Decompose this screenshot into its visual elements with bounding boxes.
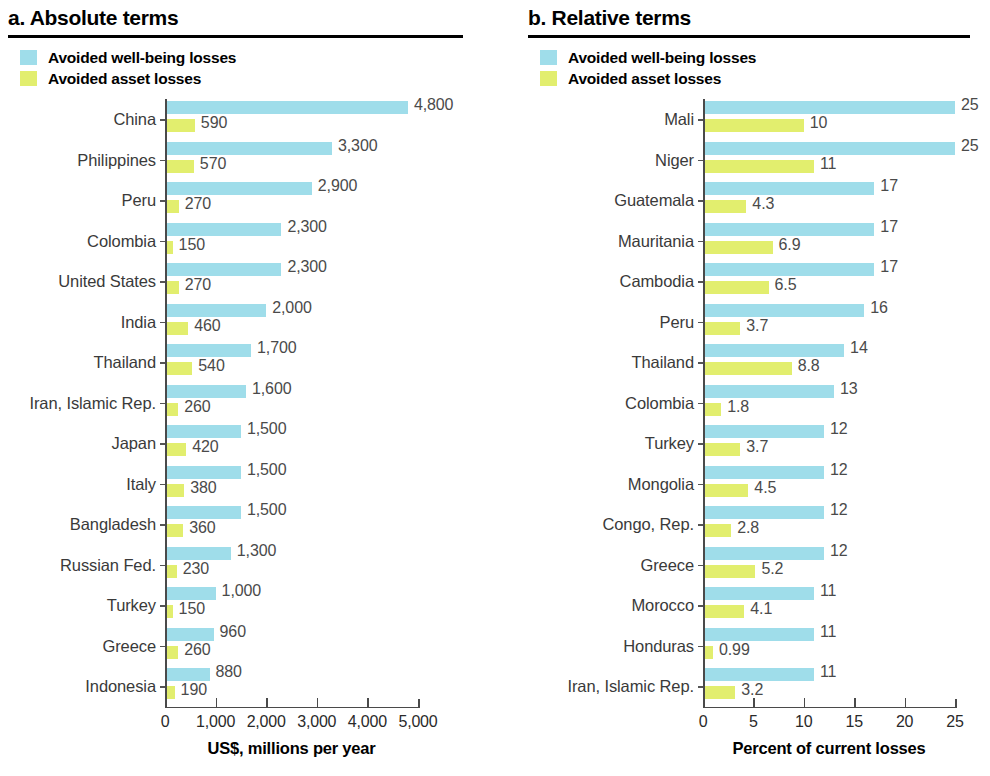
category-label: Colombia: [0, 221, 165, 262]
x-tick: [804, 698, 806, 707]
bar-row: Mongolia124.5: [520, 464, 990, 505]
bar-wellbeing: [165, 263, 281, 276]
bar-wellbeing: [165, 668, 210, 681]
bar-asset: [703, 119, 804, 132]
legend-swatch-asset: [540, 71, 557, 86]
bar-value-wellbeing: 16: [870, 299, 888, 317]
bar-wellbeing: [703, 344, 844, 357]
bar-value-asset: 150: [179, 600, 205, 618]
bar-value-wellbeing: 4,800: [414, 96, 454, 114]
x-tick-label: 3,000: [297, 713, 336, 731]
bar-group: 2,300270: [165, 261, 418, 302]
bar-group: 2,300150: [165, 221, 418, 262]
x-tick-label: 0: [699, 713, 708, 731]
bar-row: United States2,300270: [0, 261, 520, 302]
category-label: Japan: [0, 423, 165, 464]
bar-wellbeing: [165, 304, 266, 317]
bar-group: 4,800590: [165, 99, 418, 140]
bar-asset: [703, 686, 735, 699]
bar-value-asset: 4.3: [752, 195, 774, 213]
bar-value-asset: 190: [181, 681, 207, 699]
x-tick-label: 15: [845, 713, 862, 731]
x-tick: [753, 698, 755, 707]
bar-value-asset: 8.8: [798, 357, 820, 375]
bar-group: 1,500360: [165, 504, 418, 545]
bar-value-wellbeing: 11: [820, 623, 836, 641]
bar-row: Niger2511: [520, 140, 990, 181]
bar-wellbeing: [165, 385, 246, 398]
bar-value-wellbeing: 2,300: [287, 218, 327, 236]
bar-value-asset: 260: [184, 398, 210, 416]
bar-asset: [703, 200, 746, 213]
bar-wellbeing: [703, 587, 814, 600]
category-label: Turkey: [0, 585, 165, 626]
bar-group: 1,000150: [165, 585, 418, 626]
panel-b-rows: Mali2510Niger2511Guatemala174.3Mauritani…: [520, 99, 990, 707]
panel-b-xaxis: 0510152025Percent of current losses: [520, 707, 990, 765]
bar-row: Turkey1,000150: [0, 585, 520, 626]
bar-wellbeing: [165, 506, 241, 519]
x-tick-label: 0: [161, 713, 170, 731]
y-axis-spine: [703, 99, 705, 707]
x-tick-label: 4,000: [348, 713, 387, 731]
bar-value-asset: 360: [189, 519, 215, 537]
category-label: Mali: [519, 99, 703, 140]
bar-value-wellbeing: 12: [830, 542, 848, 560]
bar-value-asset: 4.1: [750, 600, 772, 618]
category-label: Indonesia: [0, 666, 165, 707]
bar-wellbeing: [703, 425, 824, 438]
bar-group: 1,500380: [165, 464, 418, 505]
panel-relative-terms: b. Relative terms Avoided well-being los…: [520, 0, 990, 776]
bar-value-wellbeing: 12: [830, 420, 848, 438]
bar-wellbeing: [165, 142, 332, 155]
bar-asset: [703, 605, 744, 618]
category-label: Colombia: [519, 383, 703, 424]
bar-value-wellbeing: 17: [880, 218, 898, 236]
bar-row: Peru163.7: [520, 302, 990, 343]
bar-value-asset: 570: [200, 155, 226, 173]
bar-group: 131.8: [703, 383, 955, 424]
category-label: Russian Fed.: [0, 545, 165, 586]
bar-group: 2510: [703, 99, 955, 140]
category-label: Mongolia: [519, 464, 703, 505]
bar-asset: [165, 403, 178, 416]
bar-asset: [703, 281, 769, 294]
bar-group: 2,000460: [165, 302, 418, 343]
category-label: Greece: [0, 626, 165, 667]
category-label: Turkey: [519, 423, 703, 464]
category-label: Peru: [519, 302, 703, 343]
category-label: Philippines: [0, 140, 165, 181]
bar-value-asset: 1.8: [727, 398, 749, 416]
bar-row: Colombia2,300150: [0, 221, 520, 262]
category-label: Niger: [519, 140, 703, 181]
bar-asset: [703, 160, 814, 173]
x-tick-label: 25: [946, 713, 963, 731]
bar-asset: [703, 362, 792, 375]
bar-row: Greece125.2: [520, 545, 990, 586]
panel-a-xaxis: 01,0002,0003,0004,0005,000US$, millions …: [0, 707, 520, 765]
category-label: Guatemala: [519, 180, 703, 221]
bar-row: Colombia131.8: [520, 383, 990, 424]
panel-a-plot: China4,800590Philippines3,300570Peru2,90…: [0, 99, 520, 765]
panel-absolute-terms: a. Absolute terms Avoided well-being los…: [0, 0, 520, 776]
category-label: Bangladesh: [0, 504, 165, 545]
bar-value-asset: 0.99: [719, 641, 750, 659]
bar-row: Morocco114.1: [520, 585, 990, 626]
bar-wellbeing: [703, 668, 814, 681]
bar-row: Cambodia176.5: [520, 261, 990, 302]
bar-value-asset: 3.2: [741, 681, 763, 699]
bar-row: Indonesia880190: [0, 666, 520, 707]
bar-group: 3,300570: [165, 140, 418, 181]
bar-wellbeing: [165, 101, 408, 114]
legend-item-asset: Avoided asset losses: [20, 68, 520, 89]
legend-label-asset: Avoided asset losses: [48, 70, 201, 88]
legend-item-wellbeing: Avoided well-being losses: [20, 47, 520, 68]
legend-swatch-wellbeing: [540, 50, 557, 65]
bar-row: Mauritania176.9: [520, 221, 990, 262]
bar-row: Bangladesh1,500360: [0, 504, 520, 545]
category-label: Congo, Rep.: [519, 504, 703, 545]
category-label: China: [0, 99, 165, 140]
bar-row: Thailand148.8: [520, 342, 990, 383]
bar-asset: [703, 484, 748, 497]
bar-wellbeing: [703, 628, 814, 641]
